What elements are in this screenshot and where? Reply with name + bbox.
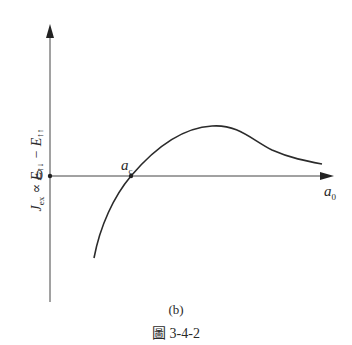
x-axis-label: a0 [324,183,336,202]
ac-label-main: a [121,157,129,173]
figure-caption: 圖 3-4-2 [0,322,352,342]
diagram-canvas [0,0,352,345]
y-label-minus-e: − E [29,138,44,163]
ac-label-sub: c [129,166,133,176]
subfigure-label: (b) [0,302,352,318]
a0-label-sub: 0 [332,192,337,202]
crossing-point-label: ac [121,157,133,176]
origin-label: 0 [36,168,43,184]
exchange-curve [94,126,322,258]
y-label-sub-ex: ex [36,197,46,206]
y-axis-arrow-icon [46,24,54,38]
a0-label-main: a [324,183,332,199]
y-label-j: J [29,205,44,211]
x-axis-arrow-icon [320,172,334,180]
origin-dot [48,174,52,178]
exchange-energy-diagram: Jex ∝ E↑↓ − E↑↑ 0 ac a0 (b) 圖 3-4-2 [0,0,352,345]
y-label-spin-parallel: ↑↑ [35,129,45,138]
